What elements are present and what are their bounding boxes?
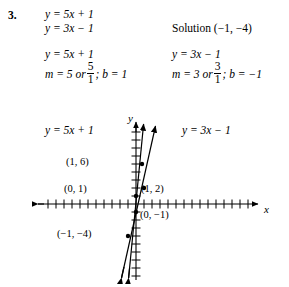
fraction-denominator: 1 — [87, 74, 95, 86]
analysis-right-slope-fraction: 31 — [214, 61, 222, 85]
analysis-left-intercept: ; b = 1 — [95, 68, 127, 80]
point-label-0-minus-1: (0, −1) — [140, 209, 169, 220]
analysis-left-slope-intercept: m = 5 or51; b = 1 — [45, 62, 127, 86]
analysis-left-slope-prefix: m = 5 or — [45, 68, 86, 80]
solution-text: Solution (−1, −4) — [172, 22, 252, 34]
analysis-left-equation: y = 5x + 1 — [45, 48, 94, 60]
analysis-left-slope-fraction: 51 — [87, 61, 95, 85]
system-equation-2: y = 3x − 1 — [45, 22, 94, 34]
point-0-minus-1 — [134, 210, 138, 214]
point-minus1-minus4 — [126, 234, 130, 238]
point-label-1-6: (1, 6) — [66, 156, 89, 167]
fraction-numerator: 3 — [214, 61, 222, 74]
analysis-right-intercept: ; b = −1 — [222, 68, 261, 80]
analysis-right-equation: y = 3x − 1 — [172, 48, 221, 60]
system-equation-1: y = 5x + 1 — [45, 8, 94, 20]
fraction-numerator: 5 — [87, 61, 95, 74]
point-0-1 — [134, 194, 138, 198]
problem-number: 3. — [8, 9, 17, 21]
point-label-0-1: (0, 1) — [64, 183, 87, 194]
coordinate-graph — [8, 112, 281, 284]
plot-line-y-3x-minus-1 — [122, 126, 156, 278]
point-1-6 — [140, 162, 144, 166]
worksheet-page: 3. y = 5x + 1 y = 3x − 1 Solution (−1, −… — [0, 0, 289, 287]
fraction-denominator: 1 — [214, 74, 222, 86]
x-axis — [38, 200, 258, 209]
point-label-minus1-minus4: (−1, −4) — [57, 228, 92, 239]
analysis-right-slope-intercept: m = 3 or31; b = −1 — [172, 62, 262, 86]
analysis-right-slope-prefix: m = 3 or — [172, 68, 213, 80]
point-label-1-2: (1, 2) — [141, 183, 164, 194]
